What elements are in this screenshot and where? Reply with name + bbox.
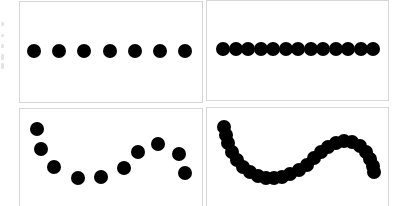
dot <box>241 42 255 56</box>
cropped-mark <box>1 22 4 26</box>
cropped-mark <box>1 54 4 60</box>
dot <box>71 171 85 185</box>
dot <box>367 165 381 179</box>
dot <box>291 42 305 56</box>
dot <box>34 142 48 156</box>
cropped-mark <box>1 63 4 69</box>
dot <box>216 42 230 56</box>
dot <box>30 122 44 136</box>
dot <box>117 161 131 175</box>
dot <box>178 166 192 180</box>
dot <box>178 44 192 58</box>
dot <box>316 42 330 56</box>
dot <box>27 44 41 58</box>
dot <box>366 42 380 56</box>
dot <box>94 170 108 184</box>
cropped-mark <box>1 34 4 37</box>
dot <box>103 44 117 58</box>
dot <box>77 44 91 58</box>
dot <box>131 145 145 159</box>
dot <box>153 44 167 58</box>
dot <box>52 44 66 58</box>
dot <box>151 137 165 151</box>
dot <box>341 42 355 56</box>
dot <box>128 44 142 58</box>
dot <box>172 147 186 161</box>
cropped-mark <box>1 44 4 48</box>
dot <box>266 42 280 56</box>
dot <box>47 160 61 174</box>
